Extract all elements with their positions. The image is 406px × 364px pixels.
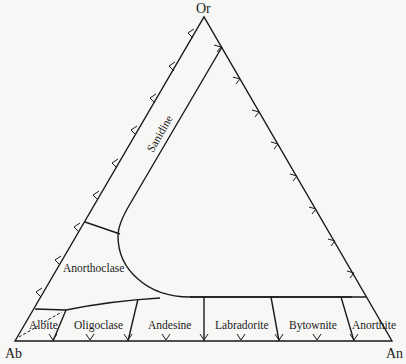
left-edge-ticks: [36, 29, 194, 297]
field-label-anorthite: Anorthite: [352, 319, 396, 331]
vertex-label-an: An: [386, 346, 403, 361]
field-label-andesine: Andesine: [148, 319, 191, 331]
triangle-outline: [15, 17, 392, 341]
anorthoclase-plagioclase-boundary: [35, 298, 160, 310]
field-label-anorthoclase: Anorthoclase: [63, 262, 124, 274]
sanidine-boundary: [118, 47, 352, 297]
feldspar-ternary-diagram: Or Ab An Sanidine Anorthoclase Albite Ol…: [0, 0, 406, 364]
field-label-sanidine: Sanidine: [144, 113, 175, 154]
field-label-oligoclase: Oligoclase: [74, 319, 123, 332]
field-label-bytownite: Bytownite: [289, 319, 337, 332]
right-edge-ticks: [214, 45, 354, 278]
vertex-label-or: Or: [196, 1, 211, 16]
field-label-labradorite: Labradorite: [215, 319, 269, 331]
oligoclase-andesine-divider: [128, 299, 138, 341]
field-label-albite: Albite: [29, 319, 58, 331]
anorthoclase-sanidine-divider: [85, 222, 120, 234]
vertex-label-ab: Ab: [5, 346, 22, 361]
